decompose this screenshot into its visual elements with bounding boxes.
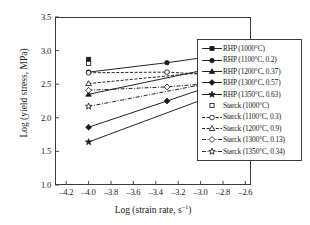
data-point-open-diamond bbox=[209, 137, 215, 143]
legend-marker-filled-triangle bbox=[201, 66, 223, 77]
data-point-open-square bbox=[87, 61, 91, 65]
x-axis-title: Log (strain rate, s–1) bbox=[55, 203, 251, 215]
data-point-filled-square bbox=[87, 57, 91, 61]
legend-item: RHP (1000°C) bbox=[201, 43, 299, 54]
legend-label: Starck (1350°C, 0.34) bbox=[223, 146, 285, 157]
legend-marker-filled-circle bbox=[201, 55, 223, 66]
legend-marker-filled-diamond bbox=[201, 77, 223, 88]
x-tick-label: –2.6 bbox=[230, 187, 260, 197]
series-5 bbox=[87, 61, 91, 65]
data-point-open-circle bbox=[210, 115, 215, 120]
data-point-open-square bbox=[210, 104, 214, 108]
series-line bbox=[89, 58, 201, 72]
series-line bbox=[89, 84, 201, 90]
legend-item: RHP (1100°C, 0.2) bbox=[201, 54, 299, 65]
chart-figure: –4.2–4.0–3.8–3.6–3.4–3.2–3.0–2.8–2.6 1.0… bbox=[0, 0, 310, 225]
legend-marker-open-triangle bbox=[201, 123, 223, 134]
legend-label: Starck (1100°C, 0.3) bbox=[223, 111, 281, 122]
legend-item: Starck (1300°C, 0.13) bbox=[201, 134, 299, 145]
legend-item: Starck (1000°C) bbox=[201, 100, 299, 111]
series-1 bbox=[86, 56, 203, 75]
data-point-open-circle bbox=[165, 70, 170, 75]
data-point-filled-circle bbox=[165, 60, 170, 65]
legend-item: Starck (1200°C, 0.9) bbox=[201, 123, 299, 134]
legend-item: RHP (1300°C, 0.57) bbox=[201, 77, 299, 88]
data-point-open-star bbox=[85, 103, 91, 109]
legend-item: Starck (1100°C, 0.3) bbox=[201, 111, 299, 122]
legend-label: Starck (1300°C, 0.13) bbox=[223, 134, 285, 145]
legend-label: RHP (1100°C, 0.2) bbox=[223, 54, 277, 65]
series-6 bbox=[86, 70, 203, 77]
legend-label: RHP (1300°C, 0.57) bbox=[223, 77, 280, 88]
series-line bbox=[89, 71, 201, 95]
data-point-open-star bbox=[209, 148, 215, 154]
y-tick-label: 1.0 bbox=[25, 180, 51, 190]
series-3 bbox=[86, 87, 204, 131]
data-point-open-diamond bbox=[86, 87, 92, 93]
data-point-filled-star bbox=[209, 91, 215, 97]
data-point-filled-star bbox=[85, 139, 91, 145]
legend-marker-filled-star bbox=[201, 89, 223, 100]
x-axis-exponent: –1 bbox=[182, 203, 189, 210]
legend-item: RHP (1200°C, 0.37) bbox=[201, 66, 299, 77]
legend-marker-open-diamond bbox=[201, 134, 223, 145]
legend-item: RHP (1350°C, 0.63) bbox=[201, 89, 299, 100]
series-0 bbox=[87, 57, 91, 61]
legend-marker-filled-square bbox=[201, 43, 223, 54]
series-4 bbox=[85, 97, 203, 145]
data-point-open-diamond bbox=[164, 84, 170, 90]
chart-legend: RHP (1000°C)RHP (1100°C, 0.2)RHP (1200°C… bbox=[197, 39, 302, 161]
legend-marker-open-circle bbox=[201, 112, 223, 123]
legend-item: Starck (1350°C, 0.34) bbox=[201, 146, 299, 157]
legend-label: Starck (1200°C, 0.9) bbox=[223, 123, 281, 134]
legend-marker-open-star bbox=[201, 146, 223, 157]
legend-marker-open-square bbox=[201, 100, 223, 111]
legend-label: Starck (1000°C) bbox=[223, 100, 269, 111]
data-point-open-circle bbox=[86, 70, 91, 75]
legend-label: RHP (1350°C, 0.63) bbox=[223, 89, 280, 100]
y-axis-title: Log (yield stress, MPa) bbox=[19, 48, 29, 137]
data-point-filled-diamond bbox=[86, 124, 92, 130]
data-point-filled-diamond bbox=[164, 98, 170, 104]
legend-label: RHP (1000°C) bbox=[223, 43, 265, 54]
data-point-filled-square bbox=[210, 47, 214, 51]
y-axis-title-wrapper: Log (yield stress, MPa) bbox=[13, 9, 31, 177]
data-point-filled-diamond bbox=[209, 80, 215, 86]
legend-label: RHP (1200°C, 0.37) bbox=[223, 66, 280, 77]
data-point-filled-circle bbox=[210, 58, 215, 63]
